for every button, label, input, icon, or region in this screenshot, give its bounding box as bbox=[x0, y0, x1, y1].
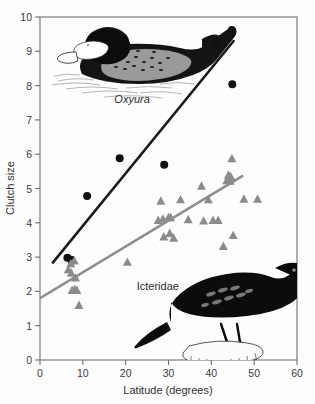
chart-figure: 0102030405060012345678910 OxyuraIcterida… bbox=[0, 0, 315, 404]
x-tick-label: 30 bbox=[163, 367, 175, 379]
y-tick-label: 4 bbox=[26, 217, 32, 229]
x-tick-label: 0 bbox=[37, 367, 43, 379]
x-tick-label: 50 bbox=[248, 367, 260, 379]
scatter-plot: 0102030405060012345678910 OxyuraIcterida… bbox=[0, 0, 315, 404]
y-tick-label: 9 bbox=[26, 45, 32, 57]
y-tick-label: 6 bbox=[26, 148, 32, 160]
x-axis-title: Latitude (degrees) bbox=[123, 384, 212, 396]
data-point-oxyura bbox=[160, 161, 168, 169]
y-tick-label: 7 bbox=[26, 114, 32, 126]
data-point-oxyura bbox=[228, 80, 236, 88]
y-tick-label: 0 bbox=[26, 354, 32, 366]
x-tick-label: 20 bbox=[120, 367, 132, 379]
data-point-oxyura bbox=[212, 43, 220, 51]
data-point-oxyura bbox=[228, 26, 236, 34]
x-tick-label: 40 bbox=[205, 367, 217, 379]
series-label-oxyura: Oxyura bbox=[114, 93, 149, 105]
data-point-oxyura bbox=[116, 154, 124, 162]
y-axis-title: Clutch size bbox=[4, 161, 16, 215]
x-tick-label: 10 bbox=[77, 367, 89, 379]
y-tick-label: 5 bbox=[26, 183, 32, 195]
y-tick-label: 10 bbox=[20, 11, 32, 23]
data-point-oxyura bbox=[83, 192, 91, 200]
y-tick-label: 8 bbox=[26, 80, 32, 92]
x-tick-label: 60 bbox=[291, 367, 303, 379]
series-label-icteridae: Icteridae bbox=[137, 280, 179, 292]
y-tick-label: 1 bbox=[26, 320, 32, 332]
y-tick-label: 3 bbox=[26, 251, 32, 263]
y-tick-label: 2 bbox=[26, 285, 32, 297]
